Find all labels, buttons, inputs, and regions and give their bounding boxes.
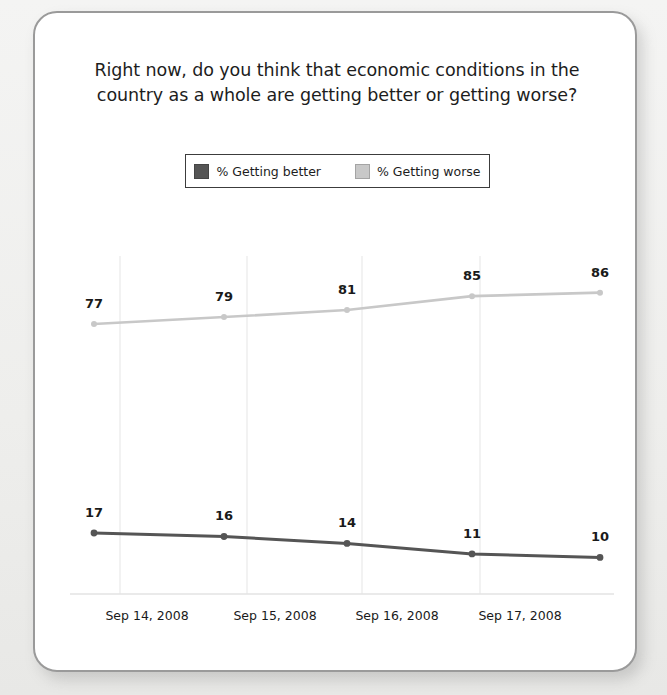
data-point-label: 14 — [338, 515, 356, 530]
chart-card: Right now, do you think that economic co… — [33, 11, 637, 672]
data-point-label: 10 — [591, 529, 609, 544]
page-title: Right now, do you think that economic co… — [75, 58, 599, 108]
legend-item-label: % Getting worse — [377, 164, 481, 179]
x-axis-tick-label: Sep 16, 2008 — [355, 608, 438, 623]
data-point-label: 17 — [85, 505, 103, 520]
data-point-label: 16 — [215, 508, 233, 523]
legend-item-getting-worse[interactable]: % Getting worse — [355, 164, 481, 179]
chart-legend: % Getting better % Getting worse — [185, 154, 490, 188]
legend-item-label: % Getting better — [216, 164, 321, 179]
title-line-2: country as a whole are getting better or… — [75, 83, 599, 108]
x-axis-tick-label: Sep 14, 2008 — [105, 608, 188, 623]
legend-swatch-icon — [355, 164, 370, 179]
x-axis-tick-label: Sep 15, 2008 — [233, 608, 316, 623]
chart-plot-area — [35, 13, 637, 672]
x-axis-tick-label: Sep 17, 2008 — [478, 608, 561, 623]
data-point-label: 86 — [591, 265, 609, 280]
legend-swatch-icon — [194, 164, 209, 179]
chart-gridlines — [120, 256, 480, 594]
data-point-label: 79 — [215, 289, 233, 304]
data-point-label: 77 — [85, 296, 103, 311]
data-point-label: 81 — [338, 282, 356, 297]
data-point-label: 11 — [463, 526, 481, 541]
data-point-label: 85 — [463, 268, 481, 283]
legend-item-getting-better[interactable]: % Getting better — [194, 164, 321, 179]
title-line-1: Right now, do you think that economic co… — [75, 58, 599, 83]
